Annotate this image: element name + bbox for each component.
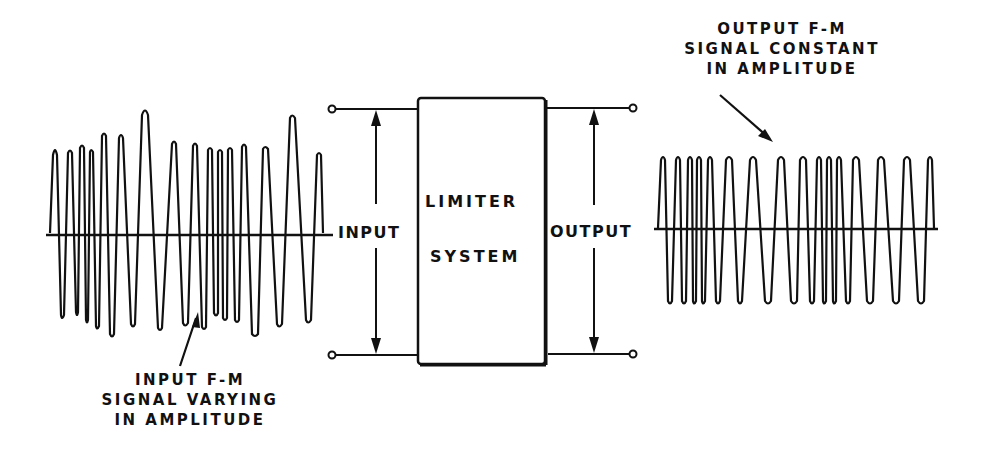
output-terminal-bottom xyxy=(630,351,637,358)
input-terminal-top xyxy=(329,106,336,113)
output-caption-line1: OUTPUT F-M xyxy=(682,19,882,39)
limiter-block-label-line2: SYSTEM xyxy=(430,249,520,265)
limiter-block-label-line1: LIMITER xyxy=(425,194,518,210)
input-label: INPUT xyxy=(338,225,400,241)
output-caption-line3: IN AMPLITUDE xyxy=(682,59,882,79)
input-arrowhead-down xyxy=(371,338,381,354)
input-signal-caption: INPUT F-M SIGNAL VARYING IN AMPLITUDE xyxy=(60,370,320,430)
limiter-system-block xyxy=(418,98,545,364)
output-terminal-top xyxy=(630,105,637,112)
output-label: OUTPUT xyxy=(550,224,632,240)
input-caption-arrowhead xyxy=(192,312,200,328)
output-caption-line2: SIGNAL CONSTANT xyxy=(682,39,882,59)
input-fm-waveform xyxy=(50,111,323,337)
output-signal-caption: OUTPUT F-M SIGNAL CONSTANT IN AMPLITUDE xyxy=(682,19,882,79)
input-arrowhead-up xyxy=(371,110,381,126)
input-caption-line3: IN AMPLITUDE xyxy=(60,410,320,430)
output-arrowhead-down xyxy=(589,337,599,353)
input-terminal-bottom xyxy=(329,352,336,359)
input-caption-line1: INPUT F-M xyxy=(60,370,320,390)
output-arrowhead-up xyxy=(589,109,599,125)
input-caption-line2: SIGNAL VARYING xyxy=(60,390,320,410)
